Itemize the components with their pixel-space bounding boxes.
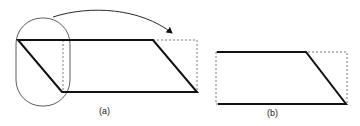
panel-b-label: (b) [267,108,278,118]
dashed-rect [216,52,347,104]
panel-a-label: (a) [99,106,110,116]
panel-a [16,10,197,106]
parallelogram [18,40,197,92]
trapezoid [217,52,346,104]
panel-b [216,52,347,104]
move-arrow [53,10,172,33]
diagram-canvas [0,0,360,126]
